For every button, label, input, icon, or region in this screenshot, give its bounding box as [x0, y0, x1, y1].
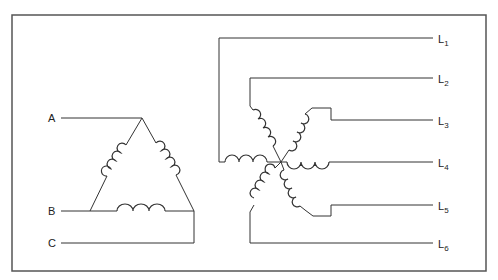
delta-coil-bottom: [90, 204, 194, 211]
lead-label-l1: L1: [438, 33, 449, 48]
lead-label-l6: L6: [438, 238, 449, 253]
delta-coil-right: [142, 118, 194, 211]
lead-label-l5: L5: [438, 200, 449, 215]
wire-c: [61, 211, 194, 243]
lead-label-l3: L3: [438, 115, 449, 130]
delta-coil-left: [90, 118, 142, 211]
diagram-border: [12, 15, 486, 271]
lead-l1: L1: [219, 33, 449, 162]
lead-l3: L3: [281, 108, 449, 162]
lead-l4: L4: [281, 157, 449, 172]
lead-l2: L2: [250, 73, 449, 162]
diagram-canvas: A B C: [0, 0, 498, 280]
delta-winding: A B C: [48, 112, 194, 249]
terminal-label-a: A: [48, 112, 56, 124]
star-winding: L1 L2 L3 L4 L5: [219, 33, 449, 253]
terminal-label-b: B: [48, 205, 55, 217]
lead-label-l2: L2: [438, 73, 449, 88]
lead-label-l4: L4: [438, 157, 449, 172]
lead-l5: L5: [280, 162, 449, 216]
terminal-label-c: C: [48, 237, 56, 249]
